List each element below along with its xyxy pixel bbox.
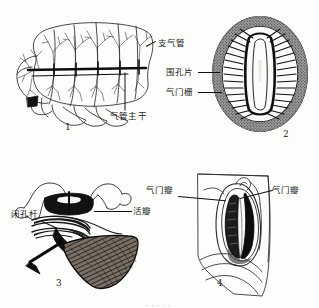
leader-line-main-trachea xyxy=(125,73,126,111)
panel-2-illustration xyxy=(208,12,313,140)
label-spiracle-sieve: 气门栅 xyxy=(166,88,194,97)
panel-3-illustration xyxy=(12,166,147,291)
label-spiracle-valve-left: 气门瓣 xyxy=(146,186,174,195)
figure-plate: 支气管 气管主干 1 xyxy=(0,0,319,308)
label-spiracle-valve-right: 气门瓣 xyxy=(272,186,300,195)
panel-number-1: 1 xyxy=(65,122,71,132)
panel-number-2: 2 xyxy=(283,129,289,139)
label-valve: 活瓣 xyxy=(133,207,151,216)
label-peritreme: 围孔片 xyxy=(166,68,194,77)
caption-strip: ····· xyxy=(0,302,319,308)
panel-number-4: 4 xyxy=(217,278,223,288)
label-bronchus: 支气管 xyxy=(158,39,186,48)
leader-line-peritreme xyxy=(198,72,220,73)
label-closing-lever: 闭孔杆 xyxy=(11,210,39,219)
label-main-trachea: 气管主干 xyxy=(110,112,147,121)
leader-line-spiracle-sieve xyxy=(198,92,222,93)
panel-1-illustration xyxy=(8,12,158,127)
panel-number-3: 3 xyxy=(56,278,62,288)
leader-line-valve xyxy=(94,211,132,212)
